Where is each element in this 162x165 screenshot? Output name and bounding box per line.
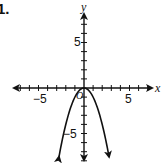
- origin-label: O: [76, 90, 83, 101]
- y-tick-label-5: 5: [74, 35, 81, 49]
- x-tick-label-5: 5: [125, 92, 132, 106]
- coordinate-plane: y x −5 5 5 −5 O: [0, 0, 162, 165]
- x-axis-label: x: [154, 81, 161, 95]
- x-tick-label-neg5: −5: [33, 92, 47, 106]
- y-tick-label-neg5: −5: [63, 127, 77, 141]
- y-axis-label: y: [80, 0, 87, 14]
